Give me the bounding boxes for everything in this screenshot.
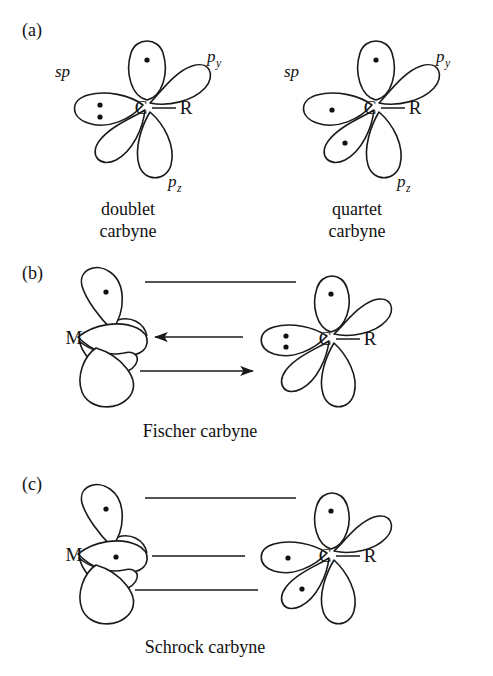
svg-text:z: z (176, 182, 182, 194)
metal-orbital-lobe-upper (81, 485, 122, 547)
structure-quartet-carbyne: C R sp p y p z quartet carbyne (284, 41, 451, 241)
structure-schrock-carbyne: M C R Sch (66, 485, 392, 657)
orbital-label-sp: sp (284, 62, 299, 81)
svg-text:p: p (167, 172, 177, 191)
caption-doublet-line1: doublet (101, 199, 155, 219)
atom-label-carbon: C (319, 328, 332, 349)
caption-schrock: Schrock carbyne (145, 637, 265, 657)
caption-quartet-line2: carbyne (329, 221, 386, 241)
electron-dot (285, 555, 290, 560)
atom-label-carbon: C (319, 545, 332, 566)
svg-text:y: y (215, 57, 222, 70)
orbital-label-py: p y (206, 47, 222, 70)
atom-label-carbon: C (135, 97, 148, 118)
svg-text:y: y (444, 57, 451, 70)
electron-dot (299, 586, 304, 591)
caption-quartet-line1: quartet (332, 199, 382, 219)
carbyne-orbital-figure: (a) (0, 0, 493, 676)
electron-dot (373, 57, 378, 62)
electron-dot (328, 508, 333, 513)
electron-dot (103, 289, 108, 294)
orbital-label-py: p y (435, 47, 451, 70)
caption-doublet-line2: carbyne (100, 221, 157, 241)
electron-dot (97, 114, 102, 119)
panel-a-label: (a) (22, 20, 42, 41)
electron-dot (283, 333, 288, 338)
electron-dot (328, 291, 333, 296)
svg-text:p: p (435, 47, 445, 66)
electron-dot (97, 102, 102, 107)
svg-text:p: p (206, 47, 216, 66)
atom-label-substituent: R (364, 545, 377, 566)
panel-a: (a) (22, 20, 451, 241)
electron-dot (103, 506, 108, 511)
panel-c: (c) M (22, 474, 392, 657)
panel-b-label: (b) (22, 263, 43, 284)
atom-label-substituent: R (364, 328, 377, 349)
electron-dot (283, 344, 288, 349)
orbital-label-sp: sp (55, 62, 70, 81)
panel-b: (b) M (22, 263, 392, 441)
atom-label-metal: M (66, 544, 83, 565)
electron-dot (329, 107, 334, 112)
atom-label-carbon: C (364, 97, 377, 118)
caption-fischer: Fischer carbyne (143, 421, 257, 441)
panel-c-label: (c) (22, 474, 42, 495)
atom-label-metal: M (66, 327, 83, 348)
orbital-label-pz: p z (396, 172, 411, 194)
structure-fischer-carbyne: M C R (66, 268, 392, 441)
atom-label-substituent: R (409, 97, 422, 118)
electron-dot (113, 554, 118, 559)
metal-orbital-lobe-upper (81, 268, 122, 330)
svg-text:p: p (396, 172, 406, 191)
svg-text:z: z (405, 182, 411, 194)
orbital-label-pz: p z (167, 172, 182, 194)
structure-doublet-carbyne: C R sp p y p z doublet carbyne (55, 41, 222, 241)
electron-dot (144, 57, 149, 62)
electron-dot (342, 140, 347, 145)
atom-label-substituent: R (180, 97, 193, 118)
